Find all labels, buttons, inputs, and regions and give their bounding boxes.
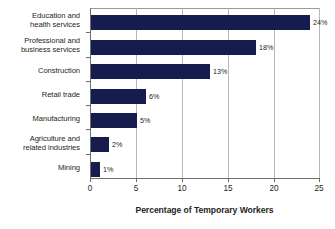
x-axis-tick xyxy=(319,178,320,182)
x-axis-line xyxy=(90,178,320,179)
category-label-line: Construction xyxy=(0,66,80,75)
category-label-line: Agriculture and xyxy=(0,134,80,143)
x-axis-tick-label: 10 xyxy=(177,184,186,193)
bar-value-label: 6% xyxy=(149,89,159,104)
x-axis-tick xyxy=(228,178,229,182)
category-label-line: Education and xyxy=(0,11,80,20)
gridline-25 xyxy=(319,8,320,178)
bar-construction xyxy=(91,64,210,79)
bar-mining xyxy=(91,162,100,177)
x-axis-tick xyxy=(274,178,275,182)
x-axis-tick-label: 20 xyxy=(269,184,278,193)
category-label: Agriculture and related industries xyxy=(0,134,80,152)
x-axis-title: Percentage of Temporary Workers xyxy=(90,205,319,215)
gridline-20 xyxy=(274,8,275,178)
plot-area: 24% 18% 13% 6% 5% 2% 1% 0 5 10 15 20 25 xyxy=(90,8,319,178)
category-axis-labels: Education and health services Profession… xyxy=(0,8,80,178)
category-label-line: Retail trade xyxy=(0,90,80,99)
bar-agriculture-and-related-industries xyxy=(91,137,109,152)
category-label-line: Mining xyxy=(0,163,80,172)
x-axis-tick-label: 25 xyxy=(314,184,323,193)
bar-chart: Education and health services Profession… xyxy=(0,0,335,229)
category-label-line: related industries xyxy=(0,143,80,152)
category-label: Retail trade xyxy=(0,90,80,99)
category-label: Mining xyxy=(0,163,80,172)
x-axis-tick xyxy=(90,178,91,182)
y-axis-line xyxy=(90,8,91,178)
category-label: Manufacturing xyxy=(0,114,80,123)
x-axis-tick xyxy=(182,178,183,182)
gridline-15 xyxy=(228,8,229,178)
bar-value-label: 5% xyxy=(140,113,150,128)
x-axis-tick-label: 15 xyxy=(223,184,232,193)
bar-education-and-health-services xyxy=(91,15,310,30)
bar-retail-trade xyxy=(91,89,146,104)
category-label-line: business services xyxy=(0,45,80,54)
x-axis-tick-label: 5 xyxy=(134,184,139,193)
category-label: Construction xyxy=(0,66,80,75)
bar-value-label: 2% xyxy=(112,137,122,152)
bar-value-label: 13% xyxy=(213,64,227,79)
category-label-line: Manufacturing xyxy=(0,114,80,123)
category-label: Education and health services xyxy=(0,11,80,29)
category-label-line: Professional and xyxy=(0,36,80,45)
category-label-line: health services xyxy=(0,20,80,29)
x-axis-tick xyxy=(136,178,137,182)
x-axis-tick-label: 0 xyxy=(88,184,93,193)
bar-value-label: 1% xyxy=(103,162,113,177)
plot-top-border xyxy=(90,8,319,9)
bar-professional-and-business-services xyxy=(91,40,256,55)
bar-value-label: 18% xyxy=(259,40,273,55)
bar-value-label: 24% xyxy=(313,15,327,30)
gridline-10 xyxy=(182,8,183,178)
category-label: Professional and business services xyxy=(0,36,80,54)
bar-manufacturing xyxy=(91,113,137,128)
